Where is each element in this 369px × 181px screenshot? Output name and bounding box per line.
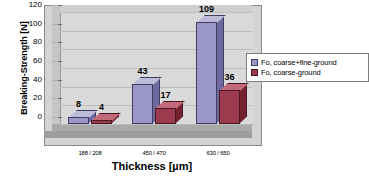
- x-axis-title: Thickness [µm]: [44, 160, 260, 172]
- legend: Fo, coarse+fine-ground Fo, coarse-ground: [246, 53, 369, 82]
- bar: [68, 117, 89, 124]
- legend-item-label: Fo, coarse+fine-ground: [261, 58, 337, 67]
- bar-front-face: [132, 84, 153, 124]
- bar: [196, 22, 217, 124]
- plot-floor-front: [44, 131, 252, 138]
- y-axis-tick-mark: [58, 5, 62, 6]
- bar-front-face: [68, 117, 89, 124]
- y-axis-tick-label: 40: [16, 75, 42, 84]
- y-axis-tick-label: 20: [16, 93, 42, 102]
- bar-front-face: [219, 90, 240, 124]
- bar-value-label: 4: [87, 102, 116, 112]
- y-axis-tick-label: 80: [16, 37, 42, 46]
- x-axis-tick-label: 630 / 650: [190, 150, 246, 156]
- bar-front-face: [91, 120, 112, 124]
- gridline: [60, 12, 252, 13]
- bar: [132, 84, 153, 124]
- y-axis-tick-label: 0: [16, 112, 42, 121]
- bar: [91, 120, 112, 124]
- y-axis-tick-label: 60: [16, 56, 42, 65]
- bar-value-label: 109: [192, 4, 221, 14]
- gridline: [60, 124, 252, 125]
- y-axis-tick-label: 100: [16, 19, 42, 28]
- legend-item[interactable]: Fo, coarse+fine-ground: [251, 58, 365, 67]
- bar-front-face: [196, 22, 217, 124]
- legend-item[interactable]: Fo, coarse-ground: [251, 68, 365, 77]
- y-axis-tick-mark: [58, 61, 62, 62]
- bar: [155, 108, 176, 124]
- legend-swatch-icon: [251, 69, 258, 76]
- bar-value-label: 17: [151, 90, 180, 100]
- bar-value-label: 43: [128, 66, 157, 76]
- y-axis-ticks: 020406080100120: [14, 0, 42, 181]
- y-axis-tick-mark: [58, 24, 62, 25]
- bar-front-face: [155, 108, 176, 124]
- legend-swatch-icon: [251, 59, 258, 66]
- y-axis-tick-mark: [58, 98, 62, 99]
- x-axis-tick-label: 450 / 470: [126, 150, 182, 156]
- x-axis-tick-label: 188 / 208: [62, 150, 118, 156]
- y-axis-tick-mark: [58, 80, 62, 81]
- y-axis-tick-label: 120: [16, 0, 42, 9]
- legend-item-label: Fo, coarse-ground: [261, 68, 321, 77]
- bar: [219, 90, 240, 124]
- y-axis-tick-mark: [58, 117, 62, 118]
- bar-value-label: 36: [215, 72, 244, 82]
- y-axis-tick-mark: [58, 42, 62, 43]
